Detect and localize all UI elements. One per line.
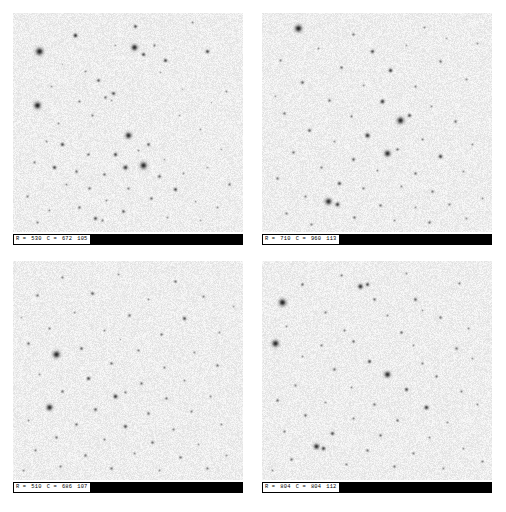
column-value: 960 [311, 235, 321, 244]
extra-value: 105 [77, 235, 87, 244]
panel-statusbar: R = 510 C = 686 107 [13, 482, 243, 493]
statusbar-fill [340, 234, 492, 245]
column-label: C = [47, 483, 57, 492]
cutout-panel[interactable]: R = 710 C = 960 113 [262, 13, 492, 245]
extra-value: 107 [77, 483, 87, 492]
row-value: 804 [280, 483, 290, 492]
cutout-panel[interactable]: R = 804 C = 804 112 [262, 261, 492, 493]
column-value: 686 [62, 483, 72, 492]
column-label: C = [47, 235, 57, 244]
row-label: R = [265, 483, 275, 492]
coordinate-readout: R = 804 C = 804 112 [262, 482, 340, 493]
row-value: 710 [280, 235, 290, 244]
sky-image[interactable] [13, 261, 243, 480]
row-label: R = [16, 483, 26, 492]
statusbar-fill [340, 482, 492, 493]
statusbar-fill [91, 234, 243, 245]
row-value: 510 [31, 483, 41, 492]
coordinate-readout: R = 530 C = 672 105 [13, 234, 91, 245]
cutout-panel[interactable]: R = 530 C = 672 105 [13, 13, 243, 245]
sky-image[interactable] [13, 13, 243, 232]
row-value: 530 [31, 235, 41, 244]
column-label: C = [296, 235, 306, 244]
coordinate-readout: R = 710 C = 960 113 [262, 234, 340, 245]
sky-canvas [262, 13, 492, 232]
panel-statusbar: R = 530 C = 672 105 [13, 234, 243, 245]
row-label: R = [16, 235, 26, 244]
row-label: R = [265, 235, 275, 244]
star-field-cutout-grid: R = 530 C = 672 105 R = 710 C = 960 113 [0, 0, 506, 512]
column-label: C = [296, 483, 306, 492]
cutout-panel[interactable]: R = 510 C = 686 107 [13, 261, 243, 493]
sky-canvas [13, 261, 243, 480]
sky-image[interactable] [262, 13, 492, 232]
extra-value: 113 [326, 235, 336, 244]
panel-statusbar: R = 804 C = 804 112 [262, 482, 492, 493]
sky-image[interactable] [262, 261, 492, 480]
extra-value: 112 [326, 483, 336, 492]
coordinate-readout: R = 510 C = 686 107 [13, 482, 91, 493]
panel-statusbar: R = 710 C = 960 113 [262, 234, 492, 245]
column-value: 672 [62, 235, 72, 244]
statusbar-fill [91, 482, 243, 493]
column-value: 804 [311, 483, 321, 492]
sky-canvas [262, 261, 492, 480]
sky-canvas [13, 13, 243, 232]
